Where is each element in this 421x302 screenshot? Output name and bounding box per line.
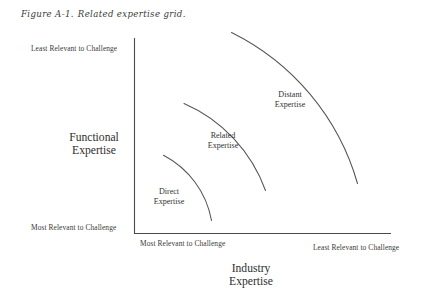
x-axis-title-line1: Industry: [192, 262, 310, 275]
x-axis-max-label: Least Relevant to Challenge: [313, 243, 399, 252]
x-axis-title-line2: Expertise: [192, 275, 310, 288]
zone-distant-line2: Expertise: [259, 100, 321, 110]
zone-related-line1: Related: [192, 131, 254, 141]
y-axis-max-label: Least Relevant to Challenge: [31, 44, 117, 53]
x-axis-min-label: Most Relevant to Challenge: [140, 239, 225, 248]
zone-direct-line2: Expertise: [140, 197, 198, 207]
y-axis-min-label: Most Relevant to Challenge: [31, 223, 116, 232]
zone-label-distant-expertise: Distant Expertise: [259, 90, 321, 110]
zone-label-direct-expertise: Direct Expertise: [140, 187, 198, 207]
y-axis-title-line2: Expertise: [46, 144, 142, 157]
y-axis-title: Functional Expertise: [46, 131, 142, 157]
zone-direct-line1: Direct: [140, 187, 198, 197]
zone-related-line2: Expertise: [192, 141, 254, 151]
x-axis-title: Industry Expertise: [192, 262, 310, 288]
zone-label-related-expertise: Related Expertise: [192, 131, 254, 151]
zone-distant-line1: Distant: [259, 90, 321, 100]
figure-page: Figure A-1.Related expertise grid. Least…: [0, 0, 421, 302]
y-axis-title-line1: Functional: [46, 131, 142, 144]
